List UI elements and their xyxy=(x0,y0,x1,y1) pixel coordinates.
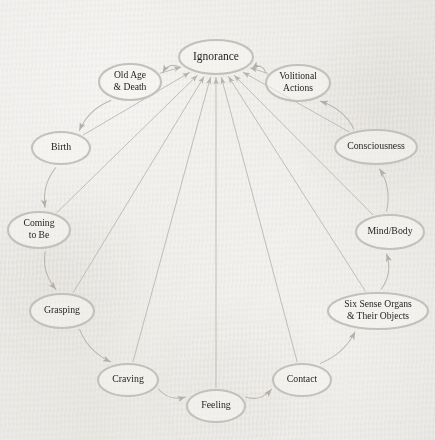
node-label-line: Old Age xyxy=(114,69,146,80)
node-label-line: & Death xyxy=(114,81,147,92)
node-label-feeling: Feeling xyxy=(201,399,230,410)
spoke-edge-craving-to-ignorance xyxy=(133,77,210,361)
spoke-edge-grasping-to-ignorance xyxy=(73,77,204,293)
node-sixsense[interactable]: Six Sense Organs& Their Objects xyxy=(328,293,428,329)
node-label-craving: Craving xyxy=(112,373,144,384)
node-label-consciousness: Consciousness xyxy=(347,140,405,151)
node-label-line: Consciousness xyxy=(347,140,405,151)
node-label-line: Volitional xyxy=(279,70,317,81)
node-oldage[interactable]: Old Age& Death xyxy=(99,64,161,100)
ring-edge-grasping-to-craving xyxy=(80,329,111,361)
node-feeling[interactable]: Feeling xyxy=(187,390,245,422)
node-label-line: Ignorance xyxy=(193,50,239,63)
node-label-mindbody: Mind/Body xyxy=(367,225,412,236)
node-label-contact: Contact xyxy=(287,373,318,384)
ring-edge-feeling-to-contact xyxy=(246,389,272,398)
node-label-line: Actions xyxy=(283,82,313,93)
node-grasping[interactable]: Grasping xyxy=(30,294,94,328)
node-label-line: to Be xyxy=(29,229,50,240)
ring-edge-comingtobe-to-grasping xyxy=(44,252,55,290)
node-label-line: Feeling xyxy=(201,399,230,410)
node-label-line: Six Sense Organs xyxy=(344,298,412,309)
node-volitional[interactable]: VolitionalActions xyxy=(266,65,330,101)
node-label-sixsense: Six Sense Organs& Their Objects xyxy=(344,298,412,321)
node-label-ignorance: Ignorance xyxy=(193,50,239,63)
node-label-line: Coming xyxy=(24,217,55,228)
node-label-line: Contact xyxy=(287,373,318,384)
ring-edge-oldage-to-birth xyxy=(79,100,110,130)
node-contact[interactable]: Contact xyxy=(273,364,331,396)
node-label-line: & Their Objects xyxy=(347,310,409,321)
node-label-line: Birth xyxy=(51,141,71,152)
node-label-volitional: VolitionalActions xyxy=(279,70,317,93)
node-label-grasping: Grasping xyxy=(44,304,80,315)
node-label-line: Craving xyxy=(112,373,144,384)
node-mindbody[interactable]: Mind/Body xyxy=(356,215,424,249)
nodes-group: IgnoranceVolitionalActionsConsciousnessM… xyxy=(8,40,428,422)
ring-edge-craving-to-feeling xyxy=(158,389,185,398)
ring-edge-contact-to-sixsense xyxy=(320,332,355,363)
spoke-edges-group xyxy=(57,67,373,387)
spoke-edge-contact-to-ignorance xyxy=(221,77,297,361)
node-birth[interactable]: Birth xyxy=(32,132,90,164)
dependent-origination-diagram: IgnoranceVolitionalActionsConsciousnessM… xyxy=(0,0,435,440)
node-label-birth: Birth xyxy=(51,141,71,152)
node-consciousness[interactable]: Consciousness xyxy=(335,130,417,164)
node-label-line: Mind/Body xyxy=(367,225,412,236)
node-label-oldage: Old Age& Death xyxy=(114,69,147,92)
ring-edges-group xyxy=(44,65,388,398)
spoke-edge-sixsense-to-ignorance xyxy=(228,77,365,292)
ring-edge-sixsense-to-mindbody xyxy=(381,254,388,289)
ring-edge-birth-to-comingtobe xyxy=(44,168,55,208)
ring-edge-mindbody-to-consciousness xyxy=(380,169,389,211)
node-comingtobe[interactable]: Comingto Be xyxy=(8,212,70,248)
node-ignorance[interactable]: Ignorance xyxy=(179,40,253,74)
node-label-line: Grasping xyxy=(44,304,80,315)
node-craving[interactable]: Craving xyxy=(98,364,158,396)
